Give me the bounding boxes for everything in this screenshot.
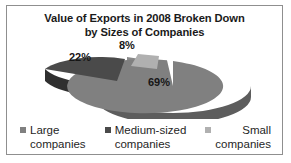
legend-label-medium-line-2: companies [115, 137, 187, 151]
pie-chart-plot-area: 69% 22% 8% [7, 39, 284, 119]
chart-card: Value of Exports in 2008 Broken Down by … [6, 5, 283, 155]
legend-label-large-line-2: companies [30, 137, 86, 151]
legend-swatch-icon-small [205, 127, 211, 133]
legend-label-large: Large companies [30, 123, 86, 151]
pie-label-large: 69% [148, 76, 170, 88]
chart-title-line-1: Value of Exports in 2008 Broken Down [44, 12, 244, 24]
legend-label-small: Small companies [215, 123, 271, 151]
chart-title-line-2: by Sizes of Companies [85, 26, 205, 38]
pie-chart-graphic [7, 39, 284, 119]
legend-label-large-line-1: Large [30, 124, 59, 136]
chart-title: Value of Exports in 2008 Broken Down by … [7, 12, 282, 39]
pie-label-medium: 22% [69, 51, 91, 63]
legend-swatch-icon-large [20, 127, 26, 133]
legend-item-small-companies[interactable]: Small companies [205, 123, 271, 151]
legend-item-large-companies[interactable]: Large companies [20, 123, 86, 151]
legend-label-small-line-2: companies [215, 137, 271, 151]
legend-label-small-line-1: Small [242, 124, 271, 136]
legend-label-medium-line-1: Medium-sized [115, 124, 187, 136]
chart-legend: Large companies Medium-sized companies S… [7, 123, 284, 155]
legend-label-medium: Medium-sized companies [115, 123, 187, 151]
legend-swatch-icon-medium [105, 127, 111, 133]
pie-label-small: 8% [119, 39, 135, 51]
legend-item-medium-sized-companies[interactable]: Medium-sized companies [105, 123, 187, 151]
